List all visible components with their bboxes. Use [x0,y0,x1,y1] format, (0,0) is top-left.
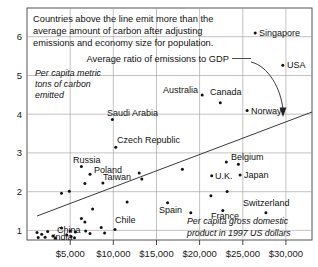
y-tick-2: 2 [17,186,22,197]
point-poland [89,173,92,176]
point-unlabeled-15 [84,229,87,232]
label-india: India [53,232,73,242]
point-unlabeled-23 [37,236,40,239]
point-unlabeled-21 [44,236,47,239]
point-unlabeled-26 [36,231,39,234]
point-canada [219,101,222,104]
x-tick-5000: $5,000 [56,248,85,259]
headline-annotation: Countries above the line emit more than … [33,14,213,48]
point-saudi-arabia [111,118,114,121]
y-tick-4: 4 [17,109,22,120]
headline-line-2: average amount of carbon after adjusting [33,26,203,36]
label-australia: Australia [163,85,198,95]
x-axis-ticks [70,240,286,245]
label-switzerland: Switzerland [243,198,290,208]
point-unlabeled-11 [80,217,83,220]
chart-svg: 6 5 4 3 2 1 $5,000 $10,000 $15,000 $20,0… [0,0,318,267]
point-unlabeled-13 [100,226,103,229]
label-norway: Norway [251,106,282,116]
point-unlabeled-5 [60,192,63,195]
scatter-chart: 6 5 4 3 2 1 $5,000 $10,000 $15,000 $20,0… [0,0,318,267]
point-unlabeled-12 [83,221,86,224]
x-tick-10000: $10,000 [96,248,130,259]
y-tick-6: 6 [17,31,22,42]
label-canada: Canada [210,87,242,97]
point-unlabeled-6 [68,190,71,193]
x-axis-title-line-2: product in 1997 US dollars [186,228,291,238]
point-belgium-2 [237,163,240,166]
point-singapore [254,32,257,35]
label-chile: Chile [115,215,136,225]
y-tick-5: 5 [17,70,22,81]
label-taiwan: Taiwan [103,172,131,182]
label-saudi-arabia: Saudi Arabia [107,108,158,118]
point-unlabeled-3 [181,168,184,171]
x-tick-20000: $20,000 [182,248,216,259]
headline-line-1: Countries above the line emit more than … [33,14,213,24]
point-belgium [225,160,228,163]
label-usa: USA [287,60,306,70]
y-axis-title-line-1: Per capita metric [35,68,102,78]
point-unlabeled-7 [209,194,212,197]
y-axis-title-line-3: emitted [35,90,65,100]
point-chile [114,228,117,231]
point-russia [80,165,83,168]
point-spain [166,201,169,204]
label-belgium: Belgium [231,152,264,162]
point-switzerland [264,211,267,214]
label-france: France [211,211,239,221]
x-tick-25000: $25,000 [226,248,260,259]
point-unlabeled-24 [73,236,76,239]
point-uk [210,174,213,177]
point-usa [281,64,284,67]
point-unlabeled-8 [126,201,129,204]
point-unlabeled-19 [40,233,43,236]
label-spain: Spain [159,205,182,215]
point-czech-republic [114,146,117,149]
point-unlabeled-9 [91,208,94,211]
headline-line-3: emissions and economy size for populatio… [33,38,213,48]
point-taiwan-2 [140,178,143,181]
y-tick-3: 3 [17,147,22,158]
trendline-label: Average ratio of emissions to GDP [87,54,229,64]
point-unlabeled-14 [103,232,106,235]
point-norway [246,109,249,112]
point-unlabeled-16 [89,232,92,235]
label-russia: Russia [73,155,101,165]
x-tick-30000: $30,000 [269,248,303,259]
x-tick-15000: $15,000 [139,248,173,259]
y-axis-tick-labels: 6 5 4 3 2 1 [17,31,22,236]
point-unlabeled-2 [83,182,86,185]
label-japan: Japan [244,170,269,180]
label-uk: U.K. [215,171,233,181]
label-czech-republic: Czech Republic [117,135,181,145]
point-unlabeled-10 [189,211,192,214]
label-singapore: Singapore [259,28,300,38]
point-taiwan [138,172,141,175]
y-tick-1: 1 [17,225,22,236]
point-australia [201,94,204,97]
x-axis-tick-labels: $5,000 $10,000 $15,000 $20,000 $25,000 $… [56,248,303,259]
point-japan [239,174,242,177]
y-axis-title-line-2: tons of carbon [35,79,91,89]
point-unlabeled-4 [226,190,229,193]
point-unlabeled-18 [46,230,49,233]
